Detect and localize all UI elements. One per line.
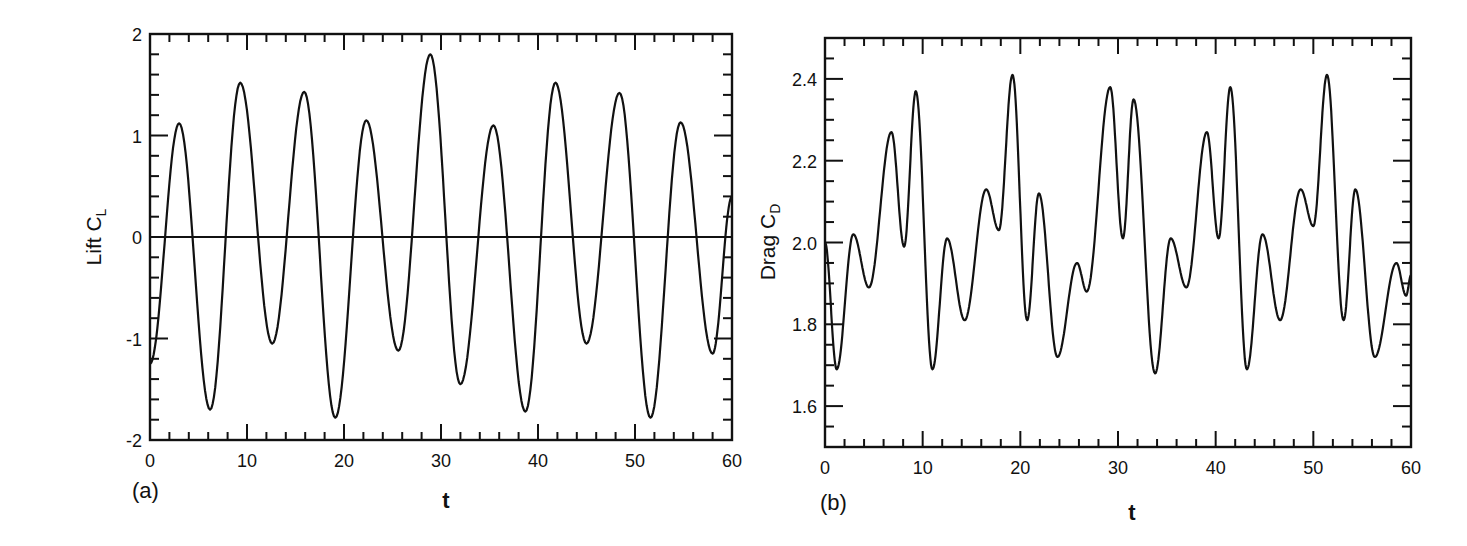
y-tick-label: 2.0 xyxy=(792,234,817,254)
drag-y-axis-label: Drag CD xyxy=(756,204,783,281)
x-tick-label: 60 xyxy=(1401,458,1421,478)
lift-y-tick-labels: -2-1012 xyxy=(126,25,142,451)
x-tick-label: 10 xyxy=(913,458,933,478)
panel-label-a: (a) xyxy=(132,478,159,503)
drag-x-tick-labels: 0102030405060 xyxy=(820,458,1421,478)
x-tick-label: 30 xyxy=(1108,458,1128,478)
x-tick-label: 50 xyxy=(1303,458,1323,478)
drag-y-tick-labels: 1.61.82.02.22.4 xyxy=(792,70,817,417)
drag-coefficient-curve xyxy=(825,75,1411,374)
x-tick-label: 40 xyxy=(528,451,548,471)
panel-label-b: (b) xyxy=(820,490,847,515)
y-tick-label: 2 xyxy=(132,25,142,45)
y-tick-label: 1.8 xyxy=(792,315,817,335)
y-tick-label: 2.4 xyxy=(792,70,817,90)
y-tick-label: 0 xyxy=(132,228,142,248)
lift-chart-panel: 0102030405060 -2-1012 Lift CL t (a) xyxy=(82,25,742,513)
x-tick-label: 30 xyxy=(431,451,451,471)
lift-x-tick-labels: 0102030405060 xyxy=(145,451,742,471)
y-tick-label: -2 xyxy=(126,431,142,451)
x-tick-label: 40 xyxy=(1206,458,1226,478)
lift-y-axis-label: Lift CL xyxy=(82,208,109,265)
y-tick-label: -1 xyxy=(126,330,142,350)
lift-x-axis-label: t xyxy=(442,488,450,513)
figure: 0102030405060 -2-1012 Lift CL t (a) 0102… xyxy=(0,0,1467,546)
y-tick-label: 1.6 xyxy=(792,397,817,417)
x-tick-label: 60 xyxy=(722,451,742,471)
x-tick-label: 50 xyxy=(625,451,645,471)
drag-x-axis-label: t xyxy=(1128,500,1136,525)
drag-chart-panel: 0102030405060 1.61.82.02.22.4 Drag CD t … xyxy=(756,38,1421,525)
x-tick-label: 20 xyxy=(1010,458,1030,478)
y-tick-label: 1 xyxy=(132,127,142,147)
x-tick-label: 10 xyxy=(237,451,257,471)
x-tick-label: 20 xyxy=(334,451,354,471)
x-tick-label: 0 xyxy=(145,451,155,471)
x-tick-label: 0 xyxy=(820,458,830,478)
y-tick-label: 2.2 xyxy=(792,152,817,172)
